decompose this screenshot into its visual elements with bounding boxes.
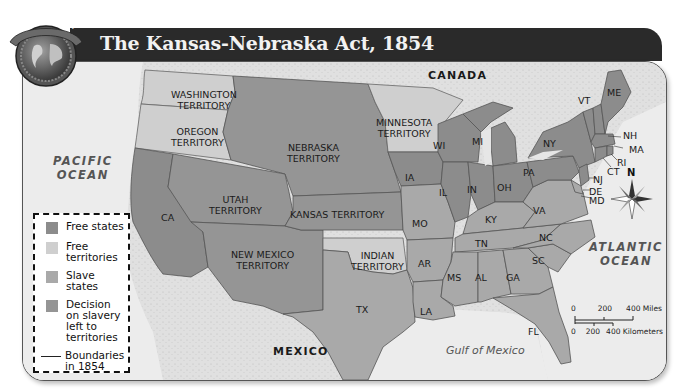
legend-item-slave-states: Slave states: [41, 270, 124, 292]
label-va: VA: [533, 205, 545, 216]
label-nc: NC: [539, 232, 553, 243]
label-minnesota-territory: MINNESOTATERRITORY: [376, 117, 432, 139]
label-ms: MS: [447, 272, 461, 283]
label-ga: GA: [506, 272, 520, 283]
label-vt: VT: [578, 95, 590, 106]
label-pacific-ocean: PACIFICOCEAN: [53, 154, 113, 182]
label-ky: KY: [485, 214, 497, 225]
label-al: AL: [475, 272, 487, 283]
label-gulf-of-mexico: Gulf of Mexico: [446, 344, 525, 357]
swatch-free-states: [46, 222, 58, 234]
label-la: LA: [420, 306, 432, 317]
label-il: IL: [439, 187, 447, 198]
map-skill-badge-icon: MAP SKILL: [6, 6, 86, 90]
label-sc: SC: [532, 255, 545, 266]
scale-miles: 0200400 Miles: [571, 304, 662, 313]
map-legend: Free states Free territories Slave state…: [33, 213, 130, 373]
legend-item-free-states: Free states: [41, 221, 124, 234]
map-title: The Kansas-Nebraska Act, 1854: [100, 32, 434, 54]
title-bar: The Kansas-Nebraska Act, 1854: [70, 28, 662, 61]
label-md: MD: [589, 195, 605, 206]
label-new-mexico-territory: NEW MEXICOTERRITORY: [231, 249, 294, 271]
label-tn: TN: [475, 238, 488, 249]
label-atlantic-ocean: ATLANTICOCEAN: [589, 240, 663, 268]
compass-star-icon: [611, 179, 653, 219]
label-mi: MI: [472, 136, 483, 147]
scale-km: 0200400 Kilometers: [571, 327, 663, 336]
label-ia: IA: [405, 172, 414, 183]
swatch-boundary-line: [41, 356, 61, 357]
label-nebraska-territory: NEBRASKATERRITORY: [287, 142, 340, 164]
label-tx: TX: [356, 304, 368, 315]
label-wi: WI: [433, 140, 445, 151]
label-ma: MA: [629, 144, 644, 155]
label-pa: PA: [523, 167, 535, 178]
label-canada: CANADA: [428, 69, 487, 82]
label-me: ME: [607, 87, 621, 98]
label-fl: FL: [528, 326, 539, 337]
label-mo: MO: [412, 218, 428, 229]
label-ny: NY: [543, 138, 556, 149]
label-oregon-territory: OREGONTERRITORY: [171, 126, 224, 148]
label-mexico: MEXICO: [273, 345, 329, 358]
swatch-free-territories: [46, 242, 58, 254]
legend-item-boundaries: Boundaries in 1854: [41, 350, 124, 372]
label-kansas-territory: KANSAS TERRITORY: [290, 209, 384, 220]
label-utah-territory: UTAHTERRITORY: [209, 194, 262, 216]
label-indian-territory: INDIANTERRITORY: [351, 250, 404, 272]
label-ar: AR: [418, 258, 431, 269]
rhode-island: [607, 146, 613, 156]
label-nh: NH: [623, 130, 637, 141]
swatch-decision-territories: [46, 300, 58, 312]
compass-rose: N: [611, 169, 653, 217]
label-nj: NJ: [593, 174, 603, 185]
compass-north-label: N: [627, 167, 635, 178]
swatch-slave-states: [46, 271, 58, 283]
legend-item-free-territories: Free territories: [41, 241, 124, 263]
label-ca: CA: [161, 212, 174, 223]
legend-item-decision-territories: Decision on slavery left to territories: [41, 299, 124, 343]
label-oh: OH: [497, 182, 512, 193]
label-washington-territory: WASHINGTONTERRITORY: [171, 89, 237, 111]
label-in: IN: [467, 184, 477, 195]
